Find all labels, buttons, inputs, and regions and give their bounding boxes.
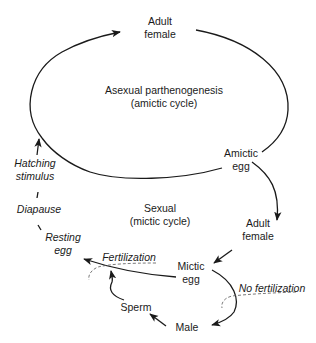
arrow-adult-female-to-mictic-egg <box>214 250 232 263</box>
label-adult-female-right: Adult female <box>242 217 274 242</box>
rotifer-life-cycle-diagram: Adult female Asexual parthenogenesis (am… <box>0 0 316 343</box>
label-fertilization: Fertilization <box>102 251 156 263</box>
label-sexual-cycle: Sexual (mictic cycle) <box>130 202 191 227</box>
label-sperm: Sperm <box>121 301 152 313</box>
svg-text:egg: egg <box>232 160 250 172</box>
arrow-mictic-egg-to-male <box>212 270 236 325</box>
svg-text:Adult: Adult <box>148 15 172 27</box>
svg-text:Mictic: Mictic <box>178 260 205 272</box>
svg-text:(mictic cycle): (mictic cycle) <box>130 215 191 227</box>
arrow-male-to-sperm <box>150 314 166 326</box>
label-asexual-cycle: Asexual parthenogenesis (amictic cycle) <box>105 84 223 109</box>
svg-text:Diapause: Diapause <box>17 203 62 215</box>
no-fertilization-dashed-line <box>222 292 296 308</box>
label-diapause: Diapause <box>17 203 62 215</box>
svg-text:(amictic cycle): (amictic cycle) <box>131 97 198 109</box>
arrow-amictic-egg-to-adult-female <box>252 162 278 220</box>
svg-text:stimulus: stimulus <box>16 170 55 182</box>
svg-text:Sperm: Sperm <box>121 301 152 313</box>
label-hatching-stimulus: Hatching stimulus <box>14 157 56 182</box>
connector-resting-egg-to-diapause <box>38 225 41 230</box>
connector-diapause-to-hatching <box>37 192 38 198</box>
svg-text:Male: Male <box>176 321 199 333</box>
label-amictic-egg: Amictic egg <box>224 147 258 172</box>
svg-text:Sexual: Sexual <box>144 202 176 214</box>
label-mictic-egg: Mictic egg <box>178 260 205 285</box>
svg-text:No fertilization: No fertilization <box>239 282 306 294</box>
svg-text:Adult: Adult <box>246 217 270 229</box>
label-adult-female-top: Adult female <box>144 15 176 40</box>
svg-text:egg: egg <box>182 273 200 285</box>
arc-amictic-egg-bottom <box>42 138 222 178</box>
label-no-fertilization: No fertilization <box>239 282 306 294</box>
svg-text:female: female <box>242 230 274 242</box>
svg-text:Fertilization: Fertilization <box>102 251 156 263</box>
svg-text:Resting: Resting <box>45 231 81 243</box>
arrow-sperm-to-fertilization <box>111 271 125 300</box>
svg-text:Asexual parthenogenesis: Asexual parthenogenesis <box>105 84 223 96</box>
svg-text:egg: egg <box>54 244 72 256</box>
fertilization-dashed-line <box>89 263 156 280</box>
label-resting-egg: Resting egg <box>45 231 81 256</box>
svg-text:Amictic: Amictic <box>224 147 258 159</box>
svg-text:female: female <box>144 28 176 40</box>
svg-text:Hatching: Hatching <box>14 157 56 169</box>
arrow-hatching-stimulus-up <box>37 139 39 155</box>
label-male: Male <box>176 321 199 333</box>
